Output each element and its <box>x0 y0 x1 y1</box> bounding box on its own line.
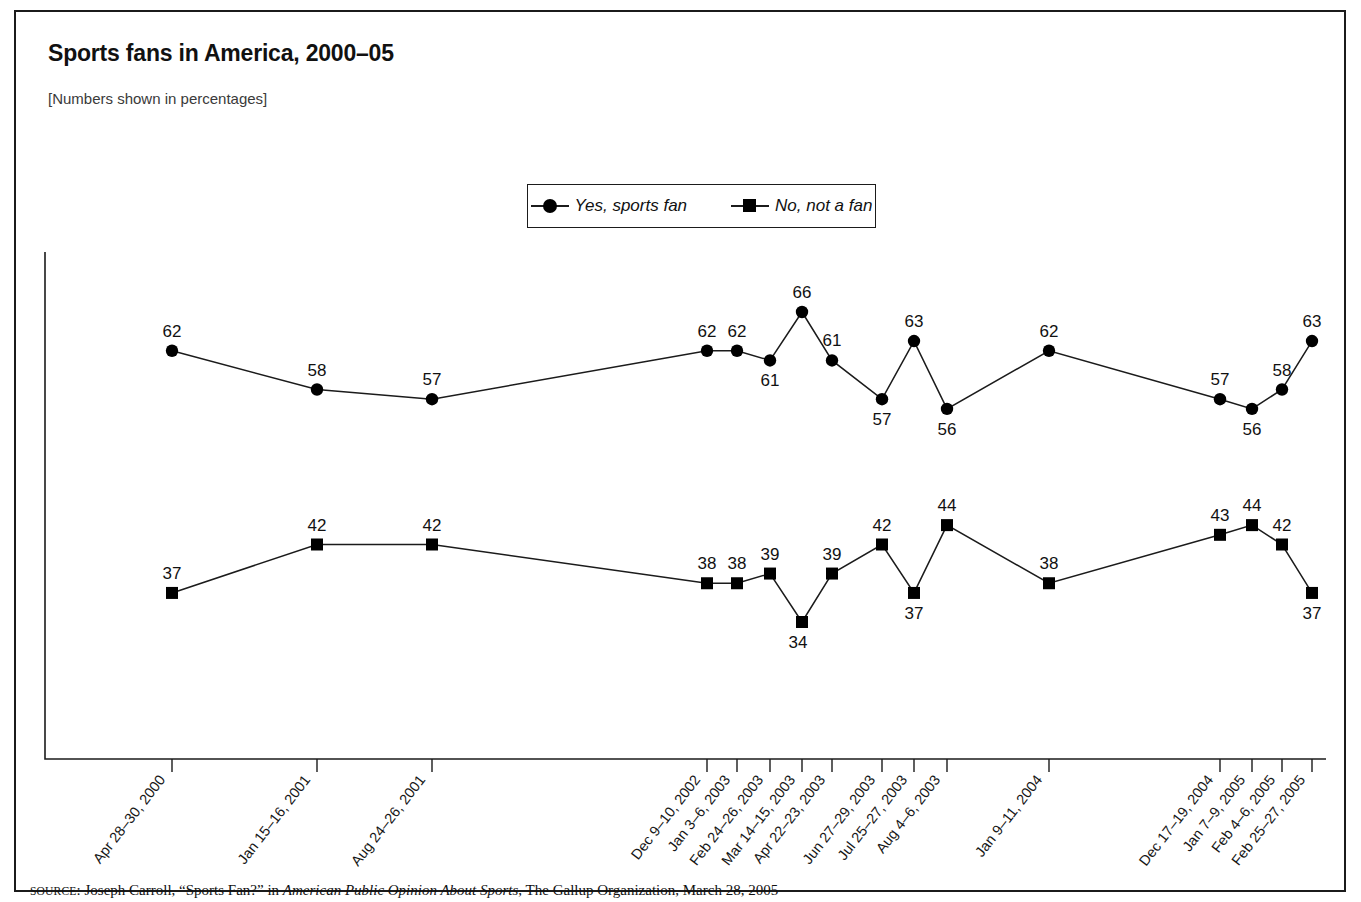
data-point-label: 63 <box>1303 312 1322 331</box>
data-point-marker <box>908 335 920 347</box>
data-point-marker <box>1043 345 1055 357</box>
data-point-marker <box>1306 587 1318 599</box>
data-point-label: 63 <box>905 312 924 331</box>
figure-inner: Sports fans in America, 2000–05 [Numbers… <box>16 12 1344 890</box>
data-point-label: 58 <box>308 361 327 380</box>
data-point-label: 57 <box>423 370 442 389</box>
data-point-label: 37 <box>905 604 924 623</box>
data-point-marker <box>1246 519 1258 531</box>
data-point-marker <box>764 568 776 580</box>
data-point-marker <box>701 345 713 357</box>
data-point-label: 38 <box>698 554 717 573</box>
source-note: SOURCE: Joseph Carroll, “Sports Fan?” in… <box>30 881 1350 899</box>
data-point-label: 66 <box>793 283 812 302</box>
data-point-label: 62 <box>1040 322 1059 341</box>
data-point-label: 62 <box>698 322 717 341</box>
data-point-label: 57 <box>873 410 892 429</box>
data-point-label: 44 <box>938 496 957 515</box>
line-chart-plot: Apr 28–30, 2000Jan 15–16, 2001Aug 24–26,… <box>16 12 1348 894</box>
chart-svg: Apr 28–30, 2000Jan 15–16, 2001Aug 24–26,… <box>16 12 1348 894</box>
data-point-marker <box>426 539 438 551</box>
data-point-label: 44 <box>1243 496 1262 515</box>
data-point-label: 61 <box>761 371 780 390</box>
source-italic: American Public Opinion About Sports <box>283 882 519 898</box>
data-point-marker <box>426 393 438 405</box>
data-point-marker <box>1246 403 1258 415</box>
data-point-label: 42 <box>1273 516 1292 535</box>
source-text: : Joseph Carroll, “Sports Fan?” in <box>77 882 283 898</box>
data-point-label: 43 <box>1211 506 1230 525</box>
data-point-label: 38 <box>1040 554 1059 573</box>
source-prefix: SOURCE <box>30 885 77 897</box>
data-point-marker <box>941 403 953 415</box>
data-point-label: 42 <box>308 516 327 535</box>
data-point-label: 42 <box>423 516 442 535</box>
data-point-marker <box>908 587 920 599</box>
data-point-label: 37 <box>1303 604 1322 623</box>
data-point-label: 62 <box>728 322 747 341</box>
data-point-marker <box>876 393 888 405</box>
data-point-marker <box>1214 529 1226 541</box>
x-axis-tick-label: Aug 24–26, 2001 <box>348 772 429 869</box>
data-point-marker <box>941 519 953 531</box>
data-point-marker <box>1276 539 1288 551</box>
data-point-label: 62 <box>163 322 182 341</box>
x-axis-tick-label: Apr 28–30, 2000 <box>90 772 169 866</box>
series-line-no-not-a-fan <box>172 525 1312 622</box>
data-point-marker <box>1043 577 1055 589</box>
data-point-marker <box>826 354 838 366</box>
data-point-label: 39 <box>823 545 842 564</box>
data-point-marker <box>796 616 808 628</box>
figure-page: Sports fans in America, 2000–05 [Numbers… <box>0 0 1361 902</box>
x-axis-tick-label: Jan 9–11, 2004 <box>972 772 1046 860</box>
data-point-marker <box>731 577 743 589</box>
data-point-marker <box>764 354 776 366</box>
data-point-marker <box>796 306 808 318</box>
x-axis-tick-label: Jan 15–16, 2001 <box>234 772 313 867</box>
data-point-label: 39 <box>761 545 780 564</box>
data-point-marker <box>1306 335 1318 347</box>
data-point-label: 56 <box>1243 420 1262 439</box>
data-point-marker <box>826 568 838 580</box>
data-point-marker <box>166 345 178 357</box>
data-point-label: 42 <box>873 516 892 535</box>
data-point-marker <box>166 587 178 599</box>
figure-frame: Sports fans in America, 2000–05 [Numbers… <box>14 10 1346 892</box>
data-point-label: 37 <box>163 564 182 583</box>
data-point-marker <box>731 345 743 357</box>
data-point-marker <box>1276 383 1288 395</box>
data-point-marker <box>311 539 323 551</box>
chart-axes <box>45 252 1326 759</box>
data-point-label: 58 <box>1273 361 1292 380</box>
data-point-label: 61 <box>823 331 842 350</box>
data-point-marker <box>311 383 323 395</box>
data-point-marker <box>1214 393 1226 405</box>
data-point-label: 56 <box>938 420 957 439</box>
data-point-marker <box>876 539 888 551</box>
data-point-label: 34 <box>789 633 808 652</box>
data-point-label: 57 <box>1211 370 1230 389</box>
source-tail: , The Gallup Organization, March 28, 200… <box>518 882 778 898</box>
data-point-label: 38 <box>728 554 747 573</box>
data-point-marker <box>701 577 713 589</box>
